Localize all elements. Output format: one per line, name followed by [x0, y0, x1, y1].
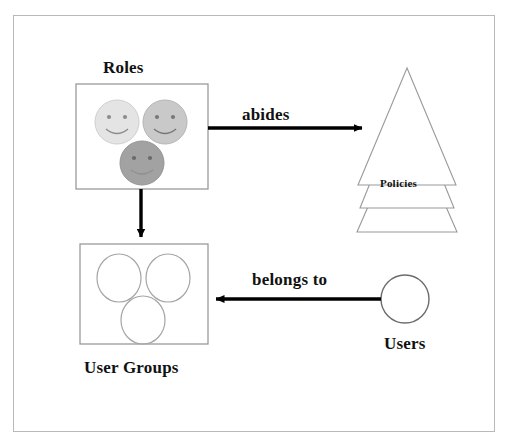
node-label-user-groups: User Groups	[84, 358, 179, 378]
diagram-vector-art	[0, 0, 509, 448]
node-label-roles: Roles	[103, 58, 144, 78]
edge-label-belongs-to: belongs to	[252, 270, 327, 290]
policy-triangle-front	[358, 68, 456, 185]
smiley-face-light-icon	[95, 100, 139, 144]
user-groups-box-outline	[80, 244, 208, 344]
smiley-face-medium-icon	[143, 100, 187, 144]
node-users[interactable]	[381, 275, 429, 323]
node-user-groups[interactable]	[80, 244, 208, 344]
node-label-policies: Policies	[380, 177, 417, 189]
node-label-users: Users	[384, 334, 426, 354]
diagram-canvas: Roles abides Policies belongs to Users U…	[0, 0, 509, 448]
node-policies[interactable]	[357, 68, 457, 232]
node-roles[interactable]	[76, 84, 208, 189]
smiley-face-dark-icon	[120, 141, 164, 185]
users-circle	[381, 275, 429, 323]
edge-label-abides: abides	[242, 105, 290, 125]
